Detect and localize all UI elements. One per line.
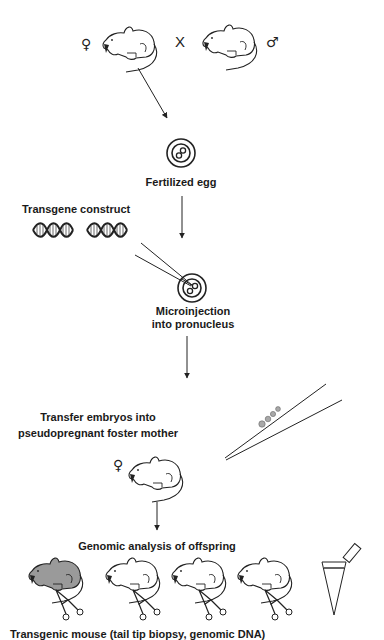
scissors-icon bbox=[133, 590, 160, 620]
offspring-mouse-icon bbox=[238, 558, 292, 603]
transfer-label-line2: pseudopregnant foster mother bbox=[18, 427, 178, 440]
sample-tube-icon bbox=[322, 544, 361, 615]
female-parent-mouse-icon bbox=[103, 27, 157, 72]
transfer-pipette-icon bbox=[225, 384, 342, 460]
arrow-to-egg bbox=[138, 68, 167, 118]
foster-female-symbol: ♀ bbox=[113, 458, 123, 472]
microinjection-label-line2: into pronucleus bbox=[152, 318, 235, 331]
dna-helix-icon bbox=[33, 223, 73, 237]
microinjection-label-line1: Microinjection bbox=[156, 305, 231, 318]
offspring-transgenic-mouse-icon bbox=[29, 558, 83, 603]
caption: Transgenic mouse (tail tip biopsy, genom… bbox=[10, 628, 265, 640]
scissors-icon bbox=[56, 590, 83, 620]
scissors-icon bbox=[265, 590, 292, 620]
offspring-mouse-icon bbox=[106, 558, 160, 603]
transgene-construct-label: Transgene construct bbox=[22, 203, 130, 216]
offspring-mouse-icon bbox=[172, 558, 226, 603]
female-symbol: ♀ bbox=[81, 37, 91, 51]
fertilized-egg-icon bbox=[167, 139, 195, 167]
foster-mother-mouse-icon bbox=[129, 457, 183, 502]
male-symbol: ♂ bbox=[266, 35, 279, 49]
dna-helix-icon bbox=[87, 223, 127, 237]
transfer-label-line1: Transfer embryos into bbox=[40, 411, 156, 424]
injected-egg-icon bbox=[178, 274, 206, 302]
genomic-analysis-label: Genomic analysis of offspring bbox=[78, 540, 236, 553]
male-parent-mouse-icon bbox=[203, 25, 257, 70]
fertilized-egg-label: Fertilized egg bbox=[146, 176, 217, 189]
cross-symbol: X bbox=[175, 33, 185, 50]
scissors-icon bbox=[199, 590, 226, 620]
